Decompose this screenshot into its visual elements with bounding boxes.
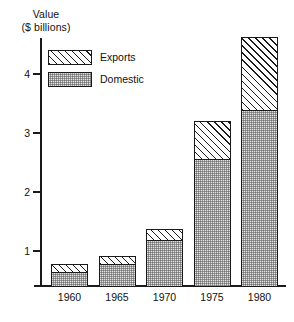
y-tick-3 [33,132,42,134]
y-tick-label-3: 3 [14,128,30,138]
y-tick-2 [33,191,42,193]
bar-1960-segment-domestic [51,272,88,287]
legend-swatch-domestic [48,72,92,87]
bar-1980-segment-domestic [241,110,278,287]
x-tick-label-1965: 1965 [93,291,142,303]
y-tick-label-1: 1 [14,246,30,256]
bar-1980-segment-exports [241,37,278,111]
bar-1975-segment-exports [194,121,231,161]
y-tick-4 [33,73,42,75]
bar-1965-segment-domestic [99,264,136,287]
legend-label-domestic: Domestic [100,72,144,87]
legend-label-exports: Exports [100,50,136,65]
bar-1980 [241,37,278,285]
x-tick-label-1970: 1970 [140,291,189,303]
stacked-bar-chart: Value ($ billions) 4 3 2 1 1960196519701… [0,0,294,322]
y-tick-1 [33,250,42,252]
y-tick-label-4: 4 [14,69,30,79]
bar-1960 [51,264,88,285]
x-tick-label-1960: 1960 [45,291,94,303]
x-tick-label-1980: 1980 [235,291,284,303]
bar-1970-segment-domestic [146,240,183,287]
bar-1965 [99,256,136,286]
y-axis-title: Value ($ billions) [0,8,92,34]
y-axis-line [40,38,42,286]
y-tick-label-2: 2 [14,187,30,197]
y-axis-title-line1: Value [0,8,92,21]
bar-1975 [194,121,231,285]
bar-1975-segment-domestic [194,159,231,286]
legend-swatch-exports [48,50,92,65]
y-axis-title-line2: ($ billions) [0,21,92,34]
bar-1970 [146,229,183,285]
x-tick-label-1975: 1975 [188,291,237,303]
